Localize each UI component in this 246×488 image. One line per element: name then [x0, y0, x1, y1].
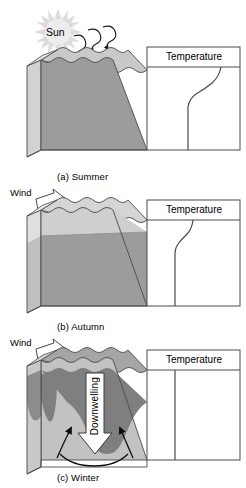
sun-label: Sun	[46, 26, 65, 38]
wind-label-autumn: Wind	[10, 187, 32, 198]
seasonal-ocean-diagram: Sun	[0, 0, 246, 488]
temperature-title-summer: Temperature	[159, 51, 229, 62]
panel-summer: Sun	[0, 0, 246, 186]
ocean-block-summer	[27, 48, 147, 158]
panel-winter: Wind Downwelling Temperature (c) Winter	[0, 330, 246, 488]
panel-autumn: Wind Temperature (b) Autumn	[0, 180, 246, 335]
temperature-graph-autumn	[147, 200, 240, 306]
downwelling-label: Downwelling	[89, 377, 100, 435]
ocean-block-autumn	[27, 198, 147, 314]
temperature-title-winter: Temperature	[159, 354, 229, 365]
caption-winter: (c) Winter	[57, 472, 99, 483]
temperature-title-autumn: Temperature	[159, 204, 229, 215]
wind-label-winter: Wind	[10, 337, 32, 348]
temperature-graph-summer	[147, 47, 240, 150]
temperature-graph-winter	[147, 350, 240, 460]
panel-summer-graphic: Sun	[0, 0, 246, 186]
